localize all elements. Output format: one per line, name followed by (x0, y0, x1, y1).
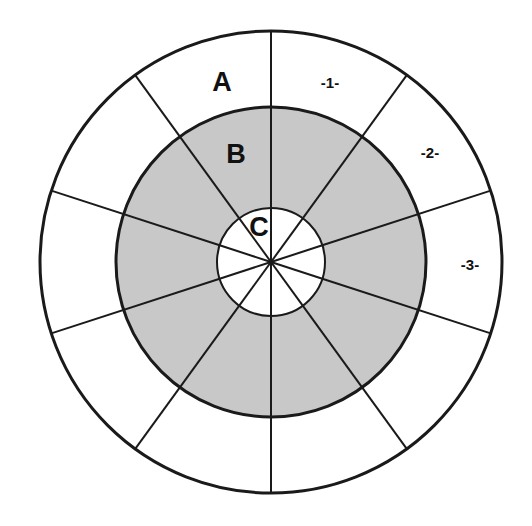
zone-label-b: B (226, 139, 246, 169)
sector-label-2: -2- (421, 144, 439, 161)
sector-label-3: -3- (461, 256, 479, 273)
zone-label-a: A (212, 67, 232, 97)
diagram-canvas: A B C -1- -2- -3- (0, 0, 532, 526)
sector-label-1: -1- (321, 74, 339, 91)
concentric-zone-diagram: A B C -1- -2- -3- (0, 0, 532, 526)
zone-label-c: C (249, 212, 269, 242)
